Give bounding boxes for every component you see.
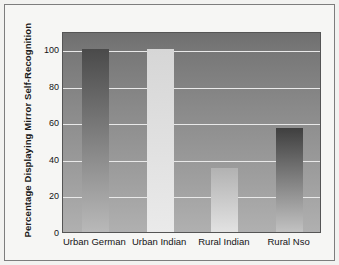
figure-border-frame: Percentage Displaying Mirror Self-Recogn…	[4, 4, 335, 261]
x-axis-tick-labels: Urban GermanUrban IndianRural IndianRura…	[62, 236, 321, 252]
y-tick-label: 100	[35, 46, 59, 55]
plot-area	[62, 32, 321, 233]
y-tick-label: 20	[35, 192, 59, 201]
bar	[276, 128, 303, 232]
x-tick-label: Rural Nso	[268, 236, 310, 247]
x-tick-label: Urban German	[63, 236, 126, 247]
y-tick-label: 80	[35, 82, 59, 91]
bar	[82, 49, 109, 232]
bar-series	[63, 33, 320, 232]
x-tick-label: Urban Indian	[132, 236, 186, 247]
y-axis-title: Percentage Displaying Mirror Self-Recogn…	[22, 24, 33, 238]
y-tick-label: 40	[35, 155, 59, 164]
bar	[211, 168, 238, 232]
figure-root: Percentage Displaying Mirror Self-Recogn…	[0, 0, 339, 265]
y-axis-tick-labels: 020406080100	[35, 32, 59, 233]
bar	[147, 49, 174, 232]
y-tick-label: 0	[35, 229, 59, 238]
y-tick-label: 60	[35, 119, 59, 128]
x-tick-label: Rural Indian	[198, 236, 249, 247]
